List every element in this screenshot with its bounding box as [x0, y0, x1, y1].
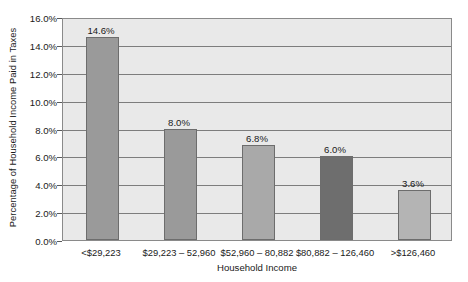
bar — [398, 190, 431, 240]
bar-value-label: 14.6% — [87, 25, 114, 36]
gridline — [63, 74, 451, 75]
bar — [320, 156, 353, 240]
bar — [86, 37, 119, 240]
y-axis-tick-label: 6.0% — [0, 152, 57, 163]
y-axis-tick-mark — [57, 241, 62, 242]
x-axis-tick-label: $80,882 – 126,460 — [296, 247, 374, 258]
x-axis-tick-label: $52,960 – 80,882 — [221, 247, 294, 258]
y-axis-tick-label: 0.0% — [0, 236, 57, 247]
x-axis-tick-label: >$126,460 — [391, 247, 436, 258]
bar-value-label: 6.0% — [324, 144, 346, 155]
y-axis-tick-label: 4.0% — [0, 180, 57, 191]
x-axis-tick-label: $29,223 – 52,960 — [143, 247, 216, 258]
gridline — [63, 130, 451, 131]
gridline — [63, 46, 451, 47]
bar-value-label: 3.6% — [402, 178, 424, 189]
gridline — [63, 102, 451, 103]
y-axis-tick-label: 8.0% — [0, 124, 57, 135]
bar-chart-figure: Percentage of Household Income Paid in T… — [0, 0, 468, 282]
bar — [242, 145, 275, 240]
bar — [164, 129, 197, 241]
y-axis-tick-label: 14.0% — [0, 40, 57, 51]
bar-value-label: 8.0% — [168, 117, 190, 128]
plot-area — [62, 18, 452, 241]
y-axis-tick-label: 2.0% — [0, 208, 57, 219]
y-axis-tick-label: 10.0% — [0, 96, 57, 107]
x-axis-title: Household Income — [62, 262, 452, 273]
x-axis-tick-label: <$29,223 — [81, 247, 120, 258]
bar-value-label: 6.8% — [246, 133, 268, 144]
y-axis-tick-label: 16.0% — [0, 13, 57, 24]
y-axis-tick-label: 12.0% — [0, 68, 57, 79]
